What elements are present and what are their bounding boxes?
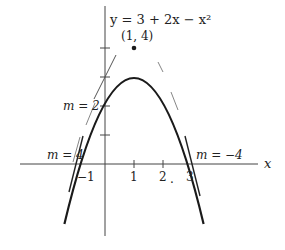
x-tick-label-3: 3: [186, 170, 194, 184]
x-tick-label-neg1: −1: [77, 170, 95, 184]
tangent-label-m-neg4: m = −4: [196, 148, 243, 162]
vertex-point: [132, 46, 137, 51]
equation-label: y = 3 + 2x − x²: [109, 12, 211, 27]
vertex-label: (1, 4): [121, 29, 153, 43]
x-tick-label-2: 2: [159, 170, 167, 184]
x-tick-label-1: 1: [130, 170, 138, 184]
stray-mark: .: [170, 172, 174, 186]
tangent-label-m2: m = 2: [63, 99, 100, 113]
x-axis-label: x: [264, 156, 272, 171]
parabola-diagram: y = 3 + 2x − x² (1, 4) m = 2 m = 4 m = −…: [0, 0, 285, 250]
tangent-label-m4: m = 4: [47, 148, 84, 162]
